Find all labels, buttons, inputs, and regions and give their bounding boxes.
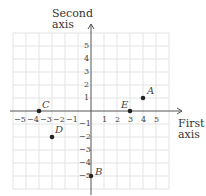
y-tick: −4: [79, 159, 91, 167]
x-axis-title-line2: axis: [178, 129, 200, 140]
x-tick: 4: [141, 116, 146, 124]
point-label-e: E: [121, 99, 128, 110]
y-tick: −2: [79, 133, 91, 141]
point-c: [37, 109, 42, 114]
y-tick: 1: [84, 94, 89, 102]
y-tick: −1: [79, 120, 91, 128]
x-tick: 1: [102, 116, 107, 124]
x-tick: 2: [115, 116, 120, 124]
x-tick: 3: [128, 116, 133, 124]
y-tick: −3: [79, 146, 91, 154]
point-label-a: A: [147, 85, 154, 96]
point-label-d: D: [55, 124, 63, 135]
point-label-c: C: [42, 99, 50, 110]
x-tick: 5: [154, 116, 159, 124]
y-tick: 4: [84, 55, 89, 63]
y-tick: −5: [79, 172, 91, 180]
x-tick: −4: [27, 116, 39, 124]
y-axis-title-line2: axis: [52, 19, 74, 30]
point-label-b: B: [95, 166, 102, 177]
point-a: [141, 96, 146, 101]
x-tick: −5: [14, 116, 26, 124]
y-tick: 5: [84, 42, 89, 50]
x-tick: −2: [53, 116, 65, 124]
x-tick: −1: [66, 116, 78, 124]
y-tick: 3: [84, 68, 89, 76]
y-tick: 2: [84, 81, 89, 89]
coordinate-plane: [0, 0, 206, 196]
point-e: [128, 109, 133, 114]
point-d: [50, 135, 55, 140]
x-tick: −3: [40, 116, 52, 124]
